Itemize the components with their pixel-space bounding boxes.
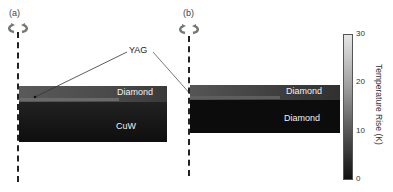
- colorbar: [343, 34, 353, 180]
- rotation-icon: [179, 22, 199, 36]
- diamond-label-b-top: Diamond: [286, 86, 322, 96]
- colorbar-tick-10: 10: [356, 126, 365, 135]
- colorbar-label: Temperature Rise (K): [374, 64, 384, 145]
- colorbar-tick-20: 20: [356, 77, 365, 86]
- diamond-label-b-bottom: Diamond: [284, 113, 320, 123]
- yag-strip-b: [190, 96, 280, 99]
- colorbar-tick-0: 0: [356, 174, 360, 183]
- colorbar-tick-30: 30: [356, 29, 365, 38]
- panel-b-label: (b): [183, 8, 194, 18]
